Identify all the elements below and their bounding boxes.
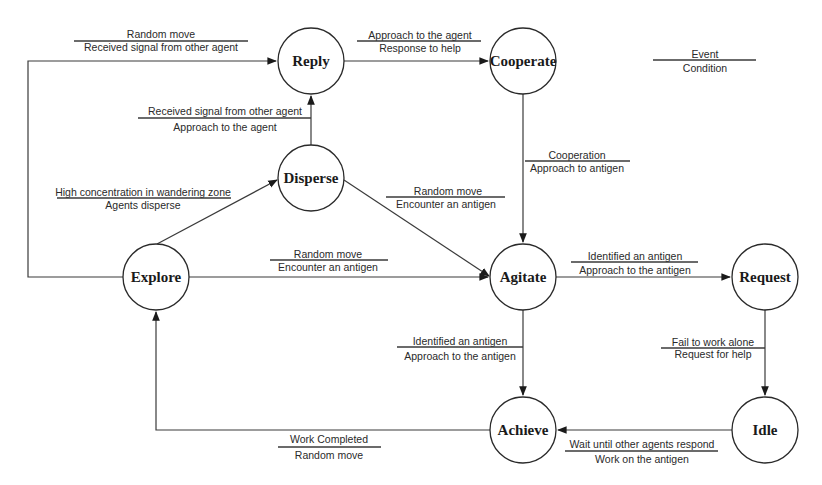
transition-label-explore-reply: Random move Received signal from other a… xyxy=(74,28,248,53)
transition-label-disperse-reply: Received signal from other agent Approac… xyxy=(138,105,311,133)
transition-label-agitate-request: Identified an antigen Approach to the an… xyxy=(571,250,698,276)
state-disperse: Disperse xyxy=(278,145,344,211)
transition-label-cooperate-agitate: Cooperation Approach to antigen xyxy=(525,149,630,174)
event-text: Random move xyxy=(127,28,195,40)
transition-label-achieve-explore: Work Completed Random move xyxy=(278,433,381,461)
condition-text: Encounter an antigen xyxy=(396,198,496,210)
state-cooperate: Cooperate xyxy=(490,28,557,94)
event-text: Wait until other agents respond xyxy=(570,438,715,450)
condition-text: Approach to the antigen xyxy=(579,264,691,276)
state-label: Idle xyxy=(752,422,777,438)
state-reply: Reply xyxy=(278,28,344,94)
legend-condition: Condition xyxy=(683,62,728,74)
transition-label-reply-cooperate: Approach to the agent Response to help xyxy=(357,29,481,54)
state-explore: Explore xyxy=(123,244,189,310)
transition-label-agitate-achieve: Identified an antigen Approach to the an… xyxy=(397,335,523,362)
condition-text: Approach to the agent xyxy=(173,121,276,133)
condition-text: Random move xyxy=(295,449,363,461)
condition-text: Request for help xyxy=(674,348,751,360)
condition-text: Approach to antigen xyxy=(530,162,624,174)
state-label: Agitate xyxy=(500,269,547,285)
state-label: Disperse xyxy=(284,170,339,186)
legend-event: Event xyxy=(692,48,719,60)
condition-text: Response to help xyxy=(379,42,461,54)
event-text: Identified an antigen xyxy=(413,335,508,347)
event-text: Random move xyxy=(414,185,482,197)
condition-text: Encounter an antigen xyxy=(278,261,378,273)
condition-text: Work on the antigen xyxy=(595,453,689,465)
event-text: High concentration in wandering zone xyxy=(55,186,231,198)
legend: Event Condition xyxy=(653,48,756,74)
state-label: Explore xyxy=(131,269,182,285)
condition-text: Approach to the antigen xyxy=(404,350,516,362)
event-text: Random move xyxy=(294,248,362,260)
event-text: Approach to the agent xyxy=(368,29,471,41)
state-label: Request xyxy=(739,269,791,285)
state-label: Cooperate xyxy=(490,53,557,69)
event-text: Received signal from other agent xyxy=(148,105,302,117)
state-diagram: Reply Cooperate Disperse Explore Agitate… xyxy=(0,0,822,485)
state-achieve: Achieve xyxy=(490,397,556,463)
state-agitate: Agitate xyxy=(490,244,556,310)
event-text: Work Completed xyxy=(290,433,368,445)
event-text: Fail to work alone xyxy=(672,336,754,348)
state-request: Request xyxy=(732,244,798,310)
state-label: Reply xyxy=(292,53,330,69)
event-text: Cooperation xyxy=(548,149,605,161)
event-text: Identified an antigen xyxy=(588,250,683,262)
transition-label-idle-achieve: Wait until other agents respond Work on … xyxy=(565,438,718,465)
condition-text: Received signal from other agent xyxy=(84,41,238,53)
transition-label-explore-disperse: High concentration in wandering zone Age… xyxy=(55,186,231,211)
transition-label-explore-agitate: Random move Encounter an antigen xyxy=(270,248,388,273)
condition-text: Agents disperse xyxy=(105,199,180,211)
transition-label-request-idle: Fail to work alone Request for help xyxy=(661,336,765,360)
state-label: Achieve xyxy=(498,422,549,438)
state-idle: Idle xyxy=(732,397,798,463)
edge-achieve-to-explore xyxy=(156,312,490,430)
transition-label-disperse-agitate: Random move Encounter an antigen xyxy=(386,185,505,210)
